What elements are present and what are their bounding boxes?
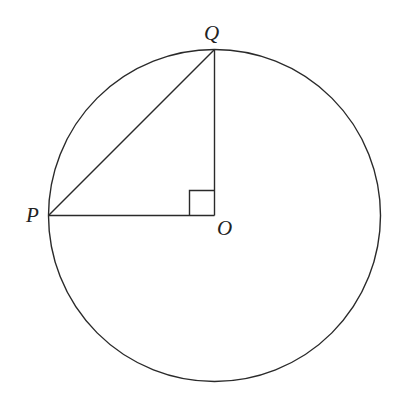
right-angle-marker: [190, 191, 215, 216]
label-p: P: [25, 203, 39, 227]
label-o: O: [217, 216, 232, 240]
circle-diagram: Q P O: [0, 0, 402, 406]
label-q: Q: [204, 21, 219, 45]
